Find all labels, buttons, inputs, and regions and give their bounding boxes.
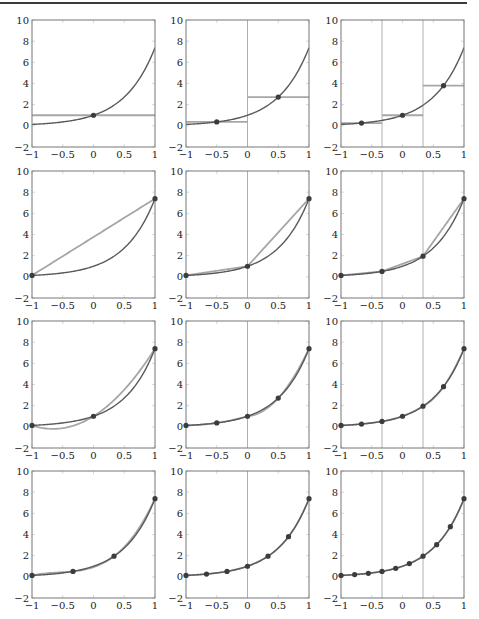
y-tick-label: 8 (23, 337, 29, 348)
node-point (286, 534, 291, 539)
y-tick-label: 2 (177, 400, 183, 411)
y-tick-label: 8 (332, 187, 338, 198)
node-point (420, 554, 425, 559)
node-point (70, 569, 75, 574)
node-point (379, 269, 384, 274)
node-point (359, 421, 364, 426)
x-tick-label: 1 (152, 600, 158, 611)
x-tick-label: 0.5 (270, 149, 286, 160)
node-point (245, 414, 250, 419)
x-tick-label: −0.5 (51, 300, 75, 311)
node-point (434, 542, 439, 547)
y-tick-label: 10 (170, 166, 183, 177)
y-tick-label: 0 (332, 120, 338, 131)
y-tick-label: 8 (23, 36, 29, 47)
x-tick-label: 0.5 (270, 450, 286, 461)
y-tick-label: 10 (16, 466, 29, 477)
y-tick-label: 10 (325, 316, 338, 327)
y-tick-label: 0 (177, 271, 183, 282)
y-tick-label: 2 (177, 250, 183, 261)
y-tick-label: 8 (23, 187, 29, 198)
node-point (420, 254, 425, 259)
x-tick-label: 0 (90, 450, 96, 461)
node-point (91, 113, 96, 118)
node-point (214, 119, 219, 124)
y-tick-label: 0 (177, 421, 183, 432)
node-point (441, 83, 446, 88)
approximation-curve (423, 499, 464, 557)
y-tick-label: −2 (168, 593, 183, 604)
y-tick-label: 0 (177, 571, 183, 582)
x-tick-label: 0.5 (116, 149, 132, 160)
approximation-curve (32, 499, 155, 576)
node-point (366, 571, 371, 576)
x-tick-label: 0.5 (116, 300, 132, 311)
y-tick-label: 10 (16, 15, 29, 26)
approximation-curve (248, 349, 310, 417)
y-tick-label: 10 (325, 466, 338, 477)
figure-canvas: −1−0.500.51−20246810−1−0.500.51−20246810… (0, 0, 479, 619)
x-tick-label: 0.5 (116, 450, 132, 461)
y-tick-label: 2 (23, 400, 29, 411)
y-tick-label: 6 (177, 208, 183, 219)
approximation-curve (186, 566, 248, 575)
node-point (379, 569, 384, 574)
node-point (152, 196, 157, 201)
y-tick-label: −2 (323, 443, 338, 454)
node-point (448, 524, 453, 529)
panel-1: −1−0.500.51−20246810 (14, 15, 158, 161)
function-curve (341, 499, 464, 576)
node-point (204, 571, 209, 576)
y-tick-label: 0 (332, 421, 338, 432)
node-point (111, 554, 116, 559)
y-tick-label: 8 (332, 487, 338, 498)
x-tick-label: 0 (399, 600, 405, 611)
y-tick-label: −2 (14, 293, 29, 304)
y-tick-label: 2 (332, 250, 338, 261)
y-tick-label: 2 (177, 99, 183, 110)
node-point (441, 384, 446, 389)
x-tick-label: −0.5 (205, 600, 229, 611)
x-tick-label: −0.5 (51, 450, 75, 461)
node-point (306, 346, 311, 351)
y-tick-label: 10 (170, 15, 183, 26)
y-tick-label: 0 (23, 421, 29, 432)
panel-3: −1−0.500.51−20246810 (323, 15, 467, 161)
approximation-curve (32, 199, 155, 276)
y-tick-label: 0 (177, 120, 183, 131)
node-point (338, 423, 343, 428)
x-tick-label: −0.5 (360, 450, 384, 461)
approximation-curve (248, 199, 310, 267)
y-tick-label: 8 (177, 187, 183, 198)
panel-8: −1−0.500.51−20246810 (168, 316, 312, 462)
y-tick-label: 10 (325, 166, 338, 177)
y-tick-label: 2 (23, 550, 29, 561)
y-tick-label: 6 (332, 358, 338, 369)
y-tick-label: −2 (14, 142, 29, 153)
node-point (400, 113, 405, 118)
node-point (91, 414, 96, 419)
y-tick-label: 2 (332, 99, 338, 110)
x-tick-label: 1 (152, 149, 158, 160)
y-tick-label: 0 (332, 571, 338, 582)
y-tick-label: 6 (332, 208, 338, 219)
y-tick-label: 8 (177, 36, 183, 47)
node-point (359, 120, 364, 125)
x-tick-label: −0.5 (205, 300, 229, 311)
x-tick-label: 0 (399, 450, 405, 461)
x-tick-label: 0 (244, 450, 250, 461)
x-tick-label: 0 (244, 300, 250, 311)
approximation-curve (382, 556, 423, 571)
x-tick-label: −0.5 (51, 600, 75, 611)
y-tick-label: 4 (177, 78, 183, 89)
node-point (420, 404, 425, 409)
x-tick-label: 0.5 (425, 450, 441, 461)
node-point (306, 496, 311, 501)
node-point (276, 94, 281, 99)
x-tick-label: 0.5 (116, 600, 132, 611)
panel-11: −1−0.500.51−20246810 (168, 466, 312, 612)
x-tick-label: 0 (90, 300, 96, 311)
approximation-curve (423, 199, 464, 257)
node-point (379, 419, 384, 424)
panel-9: −1−0.500.51−20246810 (323, 316, 467, 462)
